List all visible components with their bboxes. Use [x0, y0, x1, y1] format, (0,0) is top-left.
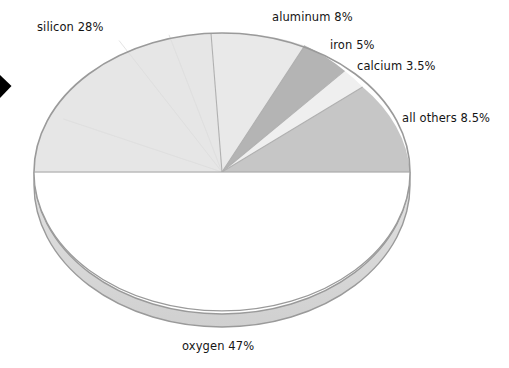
- arrow-right-marker-icon: [0, 75, 12, 99]
- pie-upper-slices: [34, 33, 410, 172]
- slice-label-iron: iron 5%: [330, 39, 375, 52]
- slice-label-oxygen: oxygen 47%: [182, 340, 254, 353]
- slice-label-aluminum: aluminum 8%: [272, 11, 353, 24]
- pie-chart-graphic: [0, 0, 509, 368]
- pie-chart-figure: silicon 28% aluminum 8% iron 5% calcium …: [0, 0, 509, 368]
- slice-oxygen: [34, 172, 410, 311]
- slice-label-silicon: silicon 28%: [37, 21, 104, 34]
- slice-label-calcium: calcium 3.5%: [357, 60, 436, 73]
- slice-label-all-others: all others 8.5%: [402, 112, 490, 125]
- slice-silicon: [34, 33, 222, 172]
